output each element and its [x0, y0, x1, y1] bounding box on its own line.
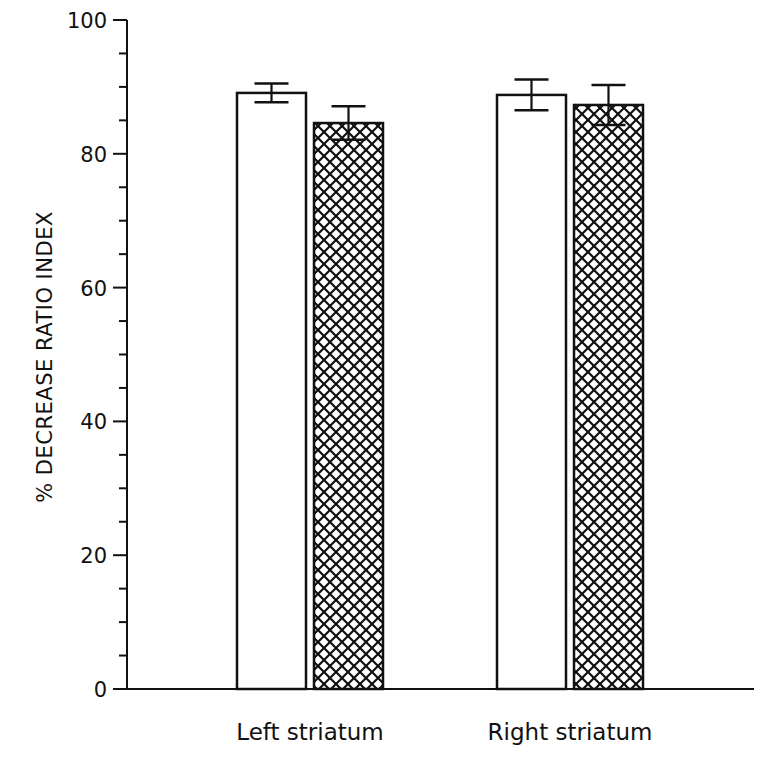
- y-tick-label: 0: [94, 678, 107, 702]
- y-axis: 020406080100: [67, 9, 127, 702]
- category-labels: Left striatumRight striatum: [236, 719, 652, 745]
- bar-open: [237, 93, 306, 689]
- y-tick-label: 40: [80, 410, 107, 434]
- bar-crosshatch: [314, 123, 383, 689]
- bar-open: [497, 95, 566, 689]
- y-tick-label: 100: [67, 9, 107, 33]
- bar-chart: 020406080100 Left striatumRight striatum…: [0, 0, 767, 757]
- y-axis-label: % DECREASE RATIO INDEX: [33, 211, 57, 503]
- bars: [237, 80, 643, 689]
- bar-crosshatch: [574, 105, 643, 689]
- y-tick-label: 60: [80, 277, 107, 301]
- category-label: Left striatum: [236, 719, 384, 745]
- y-tick-label: 20: [80, 544, 107, 568]
- y-tick-label: 80: [80, 143, 107, 167]
- category-label: Right striatum: [488, 719, 653, 745]
